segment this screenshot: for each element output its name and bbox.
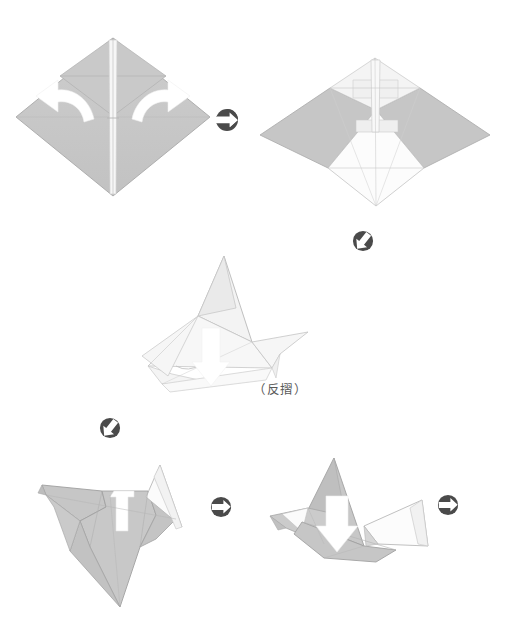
connector-2-icon bbox=[352, 230, 374, 252]
upper-spike-shade bbox=[198, 256, 236, 316]
step-3-figure bbox=[140, 250, 340, 400]
connector-1-icon bbox=[215, 108, 239, 132]
connector-4-icon bbox=[210, 496, 232, 518]
connector-arrow-right-4 bbox=[210, 496, 232, 518]
connector-5-icon bbox=[437, 494, 459, 516]
reverse-fold-caption: （反摺） bbox=[253, 379, 307, 398]
step-2-four-pointed-star-form bbox=[258, 40, 493, 205]
connector-3-icon bbox=[99, 417, 121, 439]
step-4-figure bbox=[30, 455, 210, 620]
step-1-figure bbox=[8, 30, 218, 205]
step-5-bird-form-with-down-arrow bbox=[268, 450, 448, 580]
step-1-diamond-with-two-curved-arrows bbox=[8, 30, 218, 205]
step-4-bird-form-flat bbox=[30, 455, 210, 620]
step-2-figure bbox=[258, 40, 493, 205]
origami-diagram-page: （反摺） bbox=[0, 0, 512, 643]
connector-arrow-down-left-3 bbox=[99, 417, 121, 439]
connector-arrow-down-left-2 bbox=[352, 230, 374, 252]
step-3-angled-form-reverse-fold bbox=[140, 250, 340, 400]
connector-arrow-right-5 bbox=[437, 494, 459, 516]
step-5-figure bbox=[268, 450, 448, 580]
connector-arrow-right-1 bbox=[215, 108, 239, 132]
